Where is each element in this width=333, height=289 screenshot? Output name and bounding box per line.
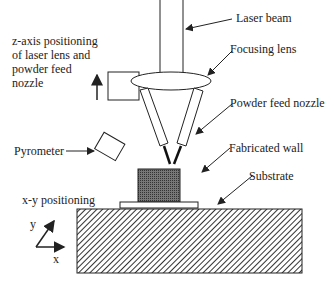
label-z-axis-line2: of laser lens and <box>12 48 90 62</box>
powder-feed-nozzle <box>140 88 203 164</box>
label-z-axis-line4: nozzle <box>12 76 43 90</box>
fabricated-wall <box>138 169 180 202</box>
label-fabricated-wall: Fabricated wall <box>229 141 303 155</box>
xy-axes-icon <box>36 221 64 247</box>
xy-stage <box>77 209 302 273</box>
pyrometer <box>95 132 125 160</box>
label-z-axis-line3: powder feed <box>12 62 72 76</box>
label-laser-beam: Laser beam <box>236 11 292 25</box>
label-substrate: Substrate <box>249 169 294 183</box>
substrate <box>120 202 198 208</box>
label-axis-x: x <box>53 252 59 266</box>
laser-beam <box>160 0 183 72</box>
label-z-axis-line1: z-axis positioning <box>12 34 98 48</box>
label-xy-positioning: x-y positioning <box>22 193 95 207</box>
focusing-lens <box>131 72 211 90</box>
label-focusing-lens: Focusing lens <box>230 42 296 56</box>
label-pyrometer: Pyrometer <box>14 144 64 158</box>
label-powder-feed-nozzle: Powder feed nozzle <box>230 96 325 110</box>
z-axis-carriage <box>108 72 139 100</box>
label-axis-y: y <box>30 217 36 231</box>
